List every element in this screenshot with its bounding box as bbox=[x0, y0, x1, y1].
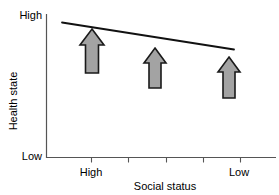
y-axis-tick-label-high: High bbox=[8, 9, 42, 21]
x-axis-ticks bbox=[92, 158, 241, 163]
y-axis-tick-label-low: Low bbox=[8, 150, 42, 162]
up-arrow-icon-3 bbox=[218, 57, 240, 98]
y-axis-title: Health state bbox=[7, 63, 19, 139]
chart-figure: High Low High Low Health state Social st… bbox=[0, 0, 279, 195]
x-axis-title: Social status bbox=[115, 180, 215, 192]
up-arrow-icon-1 bbox=[80, 29, 104, 73]
up-arrow-icon-2 bbox=[144, 48, 166, 88]
x-axis-tick-label-low: Low bbox=[217, 166, 261, 178]
x-axis-tick-label-high: High bbox=[69, 166, 113, 178]
